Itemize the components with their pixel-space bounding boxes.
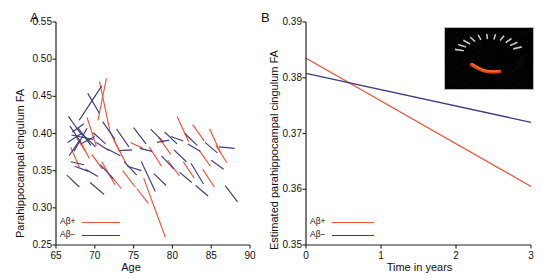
b-y-tick-0: 0.39 <box>272 16 302 27</box>
a-y-tick-1: 0.50 <box>22 53 52 64</box>
panel-a-axes <box>53 22 251 249</box>
a-legend-swatch-1 <box>82 235 120 236</box>
a-legend-label-1: Aβ− <box>60 229 76 239</box>
b-y-tick-4: 0.35 <box>272 239 302 250</box>
sagittal-brain-image <box>445 28 533 89</box>
b-x-tick-3: 3 <box>515 250 541 261</box>
a-y-tick-0: 0.55 <box>22 16 52 27</box>
b-legend-swatch-1 <box>332 235 374 236</box>
a-legend-swatch-0 <box>82 222 120 223</box>
a-x-tick-1: 70 <box>79 250 111 261</box>
b-x-tick-2: 2 <box>440 250 472 261</box>
a-legend-label-0: Aβ+ <box>60 216 76 226</box>
panel-a: A Parahippocampal cingulum FA Age 0.550.… <box>0 0 262 279</box>
a-y-tick-3: 0.40 <box>22 128 52 139</box>
figure-container: A Parahippocampal cingulum FA Age 0.550.… <box>0 0 541 279</box>
b-y-tick-1: 0.38 <box>272 72 302 83</box>
b-x-tick-1: 1 <box>365 250 397 261</box>
a-y-tick-4: 0.35 <box>22 165 52 176</box>
panel-a-data-lines <box>67 78 238 237</box>
a-x-tick-2: 75 <box>118 250 150 261</box>
b-legend-label-0: Aβ+ <box>310 216 326 226</box>
b-legend-label-1: Aβ− <box>310 229 326 239</box>
b-y-tick-3: 0.36 <box>272 183 302 194</box>
panel-b: B Estimated parahippocampal cingulum FA … <box>258 0 541 279</box>
a-y-tick-5: 0.30 <box>22 202 52 213</box>
b-legend-swatch-0 <box>332 222 374 223</box>
a-x-tick-3: 80 <box>156 250 188 261</box>
panel-a-plot <box>0 0 262 279</box>
a-x-tick-4: 85 <box>195 250 227 261</box>
a-y-tick-2: 0.45 <box>22 90 52 101</box>
a-x-tick-0: 65 <box>40 250 72 261</box>
brain-mri-inset <box>444 27 534 90</box>
b-y-tick-2: 0.37 <box>272 128 302 139</box>
b-x-tick-0: 0 <box>290 250 322 261</box>
a-y-tick-6: 0.25 <box>22 239 52 250</box>
